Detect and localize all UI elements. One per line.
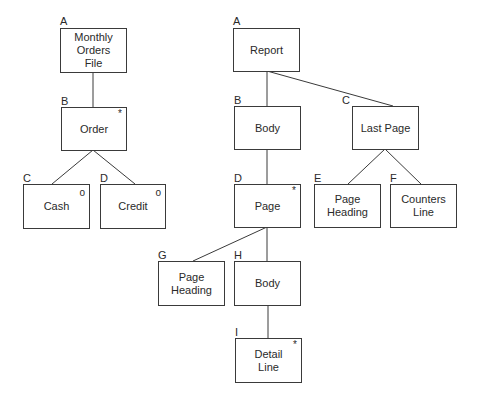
node-letter-a: A: [60, 16, 67, 27]
node-report: Report: [233, 28, 300, 72]
node-page-heading-e: Page Heading: [314, 184, 381, 228]
node-text: Page: [255, 200, 281, 213]
node-text: Credit: [118, 200, 147, 213]
node-order: Order *: [61, 107, 127, 151]
node-text: Report: [250, 44, 283, 57]
node-page-heading-g: Page Heading: [158, 261, 225, 306]
selection-marker-icon: o: [155, 188, 161, 198]
node-letter-e: E: [314, 173, 321, 184]
node-letter-c: C: [23, 173, 31, 184]
node-letter-c: C: [342, 95, 350, 106]
node-credit: Credit o: [100, 184, 166, 229]
node-letter-b: B: [234, 95, 241, 106]
node-text: Body: [255, 122, 280, 135]
node-text: Counters Line: [401, 193, 446, 219]
node-text: Monthly Orders File: [74, 31, 113, 70]
connector-last-page-to-page-heading: [348, 149, 385, 184]
node-text: Order: [80, 123, 108, 136]
node-last-page: Last Page: [352, 106, 419, 150]
node-letter-h: H: [234, 250, 242, 261]
node-text: Last Page: [361, 122, 411, 135]
node-text: Page Heading: [327, 193, 368, 219]
iteration-marker-icon: *: [293, 340, 297, 350]
node-text: Detail Line: [254, 348, 282, 374]
node-letter-a: A: [233, 16, 240, 27]
node-monthly-orders-file: Monthly Orders File: [60, 28, 127, 73]
node-counters-line: Counters Line: [390, 184, 457, 228]
node-cash: Cash o: [23, 184, 90, 229]
connector-page-to-page-heading: [193, 227, 267, 261]
jackson-structure-diagram: A Monthly Orders File B Order * C Cash o…: [0, 0, 478, 400]
node-letter-f: F: [390, 173, 397, 184]
node-page: Page *: [234, 184, 301, 228]
node-detail-line: Detail Line *: [235, 338, 302, 383]
node-letter-i: I: [235, 327, 238, 338]
node-letter-d: D: [234, 173, 242, 184]
node-letter-g: G: [158, 250, 167, 261]
node-body-h: Body: [234, 261, 301, 306]
connector-report-to-last-page: [267, 71, 393, 106]
node-letter-d: D: [100, 173, 108, 184]
node-text: Body: [255, 277, 280, 290]
iteration-marker-icon: *: [292, 186, 296, 196]
selection-marker-icon: o: [79, 188, 85, 198]
connector-order-to-cash: [52, 150, 93, 184]
node-body: Body: [234, 106, 301, 150]
iteration-marker-icon: *: [118, 109, 122, 119]
node-letter-b: B: [61, 96, 68, 107]
node-text: Page Heading: [171, 271, 212, 297]
node-text: Cash: [44, 200, 70, 213]
